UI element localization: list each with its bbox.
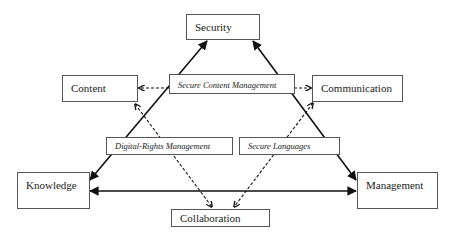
- node-label: Communication: [321, 82, 392, 94]
- node-communication: Communication: [312, 75, 403, 102]
- node-content: Content: [62, 75, 138, 102]
- node-label: Management: [366, 179, 423, 191]
- node-management: Management: [357, 172, 438, 209]
- mechanism-label: Digital-Rights Management: [115, 141, 210, 151]
- node-label: Content: [71, 82, 106, 94]
- mechanism-label: Secure Languages: [248, 141, 310, 151]
- node-collaboration: Collaboration: [171, 209, 270, 227]
- mechanism-secure-languages: Secure Languages: [239, 137, 340, 155]
- mechanism-digital-rights-management: Digital-Rights Management: [106, 137, 233, 155]
- edge-management-security: [253, 41, 356, 180]
- node-knowledge: Knowledge: [17, 172, 90, 209]
- mechanism-secure-content-management: Secure Content Management: [169, 74, 295, 94]
- node-label: Security: [195, 21, 232, 33]
- node-security: Security: [186, 14, 260, 40]
- edge-knowledge-security: [90, 41, 207, 180]
- mechanism-label: Secure Content Management: [178, 80, 276, 90]
- node-label: Collaboration: [180, 212, 241, 224]
- node-label: Knowledge: [26, 179, 77, 191]
